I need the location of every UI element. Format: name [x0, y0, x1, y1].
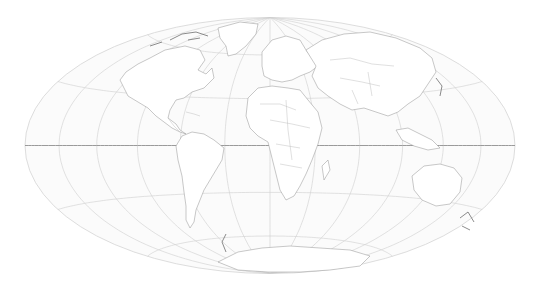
world-map — [0, 0, 537, 290]
map-canvas — [0, 0, 537, 290]
